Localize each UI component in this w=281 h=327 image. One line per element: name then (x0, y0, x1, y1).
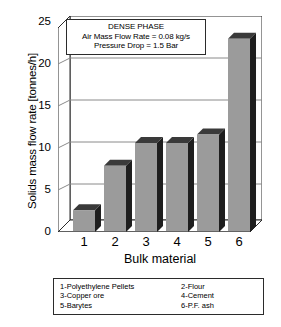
bar-side-face (157, 137, 163, 232)
bar-side-face (126, 160, 132, 232)
x-tick-label: 5 (198, 234, 218, 249)
bar-front-face (104, 166, 126, 232)
annotation-box: DENSE PHASE Air Mass Flow Rate = 0.08 kg… (66, 19, 206, 55)
bar-side-face (219, 129, 225, 232)
legend-entry: 3-Copper ore (60, 291, 104, 300)
bar-5 (197, 129, 225, 232)
annotation-line-2: Air Mass Flow Rate = 0.08 kg/s (70, 32, 202, 42)
bar-front-face (135, 143, 157, 232)
bar-6 (228, 33, 256, 232)
legend-entry: 4-Cement (181, 291, 214, 300)
y-tick-label: 15 (27, 100, 51, 111)
y-tick-label: 10 (27, 142, 51, 153)
legend-box: 1-Polyethylene Pellets 2-Flour 3-Copper … (53, 278, 264, 315)
x-axis-title: Bulk material (58, 252, 262, 266)
bar-front-face (73, 210, 95, 232)
bar-front-face (166, 143, 188, 232)
legend-entry: 5-Barytes (60, 301, 92, 310)
bar-3 (135, 137, 163, 232)
y-tick-label: 20 (27, 58, 51, 69)
x-tick-label: 3 (136, 234, 156, 249)
legend-entry: 2-Flour (181, 282, 205, 291)
bar-side-face (188, 137, 194, 232)
bar-side-face (250, 33, 256, 232)
bar-2 (104, 160, 132, 232)
bar-4 (166, 137, 194, 232)
bar-chart-figure: Solids mass flow rate [tonnes/h] 25 20 1… (0, 0, 281, 327)
annotation-line-3: Pressure Drop = 1.5 Bar (70, 41, 202, 51)
legend-row: 1-Polyethylene Pellets 2-Flour (60, 282, 263, 291)
x-axis-tick-labels: 1 2 3 4 5 6 (58, 234, 262, 252)
x-tick-label: 4 (167, 234, 187, 249)
bar-front-face (228, 39, 250, 232)
bar-front-face (197, 135, 219, 232)
legend-entry: 6-P.F. ash (181, 301, 214, 310)
legend-entry: 1-Polyethylene Pellets (60, 282, 134, 291)
y-axis-tick-labels: 25 20 15 10 5 0 (21, 0, 51, 327)
y-tick-label: 25 (27, 16, 51, 27)
y-tick-label: 0 (27, 226, 51, 237)
legend-row: 3-Copper ore 4-Cement (60, 291, 263, 300)
x-tick-label: 1 (74, 234, 94, 249)
bar-1 (73, 204, 101, 232)
legend-row: 5-Barytes 6-P.F. ash (60, 301, 263, 310)
annotation-line-1: DENSE PHASE (70, 22, 202, 32)
x-tick-label: 2 (105, 234, 125, 249)
x-tick-label: 6 (229, 234, 249, 249)
y-tick-label: 5 (27, 184, 51, 195)
